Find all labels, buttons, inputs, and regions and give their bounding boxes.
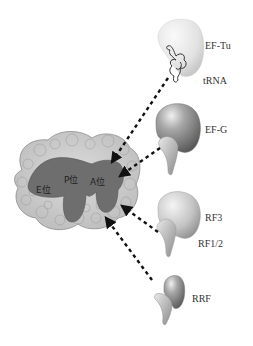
ef-tu-factor — [158, 19, 204, 82]
label-a-site: A位 — [90, 175, 105, 188]
ribosome-diagram: EF-Tu tRNA EF-G RF3 RF1/2 RRF E位 P位 A位 — [0, 0, 253, 346]
rf3-rf12-factor — [157, 192, 200, 257]
arrow-rrf — [106, 218, 152, 280]
label-ef-tu: EF-Tu — [205, 40, 231, 51]
label-e-site: E位 — [36, 183, 51, 196]
diagram-canvas — [0, 0, 253, 346]
ef-g-factor — [156, 104, 200, 175]
label-ef-g: EF-G — [205, 124, 227, 135]
rrf-factor — [155, 275, 185, 324]
label-p-site: P位 — [64, 173, 78, 186]
label-rrf: RRF — [192, 293, 211, 304]
label-rf3: RF3 — [205, 212, 222, 223]
label-rf12: RF1/2 — [198, 238, 223, 249]
label-trna: tRNA — [203, 75, 227, 86]
